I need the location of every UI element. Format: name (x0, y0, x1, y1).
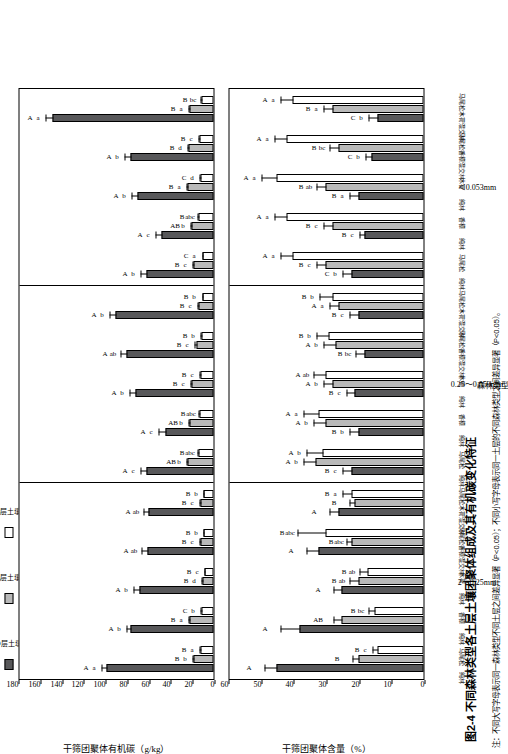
significance-letter-lower: d (190, 175, 194, 182)
error-bar (188, 108, 190, 109)
significance-letter-upper: B (185, 490, 190, 497)
bar-o-layer: Ab (115, 311, 213, 319)
significance-letter-upper: A (123, 547, 128, 554)
bar-o-layer: A (341, 586, 423, 594)
error-bar (197, 305, 199, 306)
bar-group: AabBcBb (19, 486, 213, 519)
significance-letter-upper: AB (170, 223, 180, 230)
significance-letter-lower: a (333, 490, 336, 497)
significance-letter-upper: B (170, 105, 175, 112)
significance-letter-upper: B (338, 350, 343, 357)
error-bar (349, 314, 359, 315)
significance-letter-lower: a (271, 96, 274, 103)
significance-letter-upper: B (331, 311, 336, 318)
bar-a-layer: Ba (187, 183, 213, 191)
significance-letter-lower: a (271, 253, 274, 260)
significance-letter-lower: c (181, 381, 184, 388)
significance-letter-upper: B (331, 429, 336, 436)
significance-letter-lower: ab (305, 184, 312, 191)
significance-letter-lower: b (310, 293, 314, 300)
y-axis-tick-mark (214, 680, 215, 684)
bar-group: AbBaCb (19, 604, 213, 637)
bar-group: AbBcBb (19, 289, 213, 322)
significance-letter-upper: A (137, 232, 142, 239)
significance-letter-lower: bc (318, 144, 325, 151)
bar-group: CbBbcAa (229, 131, 423, 164)
error-bar (109, 314, 116, 315)
bar-a-layer: Bbc (338, 144, 423, 152)
bar-o-layer: Bc (354, 389, 423, 397)
panel-2: AcABbBabcAcABbBabcAbBcBcAabBcBbAbBcBb (19, 285, 213, 482)
significance-letter-lower: b (191, 608, 195, 615)
category-label: 香樟纯林 (426, 407, 470, 441)
y-axis-tick-label: 140 (50, 680, 62, 689)
significance-letter-upper: C (183, 608, 188, 615)
y-axis-tick-label: 0 (420, 680, 424, 689)
bar-groups: AaBbBaAbBaCbAbBdBcAabBcBbAabBcBb (19, 483, 213, 679)
bar-a-layer: ABb (191, 222, 213, 230)
significance-letter-upper: B (177, 341, 182, 348)
bar-o-layer: Aab (148, 508, 213, 516)
error-bar (329, 511, 339, 512)
significance-letter-upper: A (288, 450, 293, 457)
significance-letter-lower: d (178, 144, 182, 151)
error-bar (188, 423, 190, 424)
legend-item-b: B层土壤 (3, 498, 13, 538)
error-bar (346, 541, 353, 542)
error-bar (140, 471, 147, 472)
bar-a-layer: Bab (358, 577, 423, 585)
error-bar (190, 384, 192, 385)
bar-a-layer: Bd (202, 577, 213, 585)
bar-group: CbBcAa (229, 249, 423, 282)
error-bar (124, 156, 132, 157)
error-bar (352, 659, 359, 660)
error-bar (186, 187, 188, 188)
bar-o-layer: Ab (130, 625, 213, 633)
bar-a-layer: Aa (338, 302, 423, 310)
error-bar (143, 511, 148, 512)
error-bar (202, 256, 204, 257)
y-axis-tick-mark (105, 680, 106, 684)
significance-letter-upper: B (179, 450, 184, 457)
significance-letter-upper: B (331, 578, 336, 585)
significance-letter-lower: abc (186, 411, 196, 418)
significance-letter-upper: B (179, 302, 184, 309)
category-label: 马尾松 ×木荷混交林 (426, 91, 470, 125)
error-bar (190, 226, 192, 227)
significance-letter-upper: B (186, 569, 191, 576)
panel-1: ABBcAABBbcABabBabABabcBabcABBa (229, 482, 423, 679)
significance-letter-lower: b (191, 332, 195, 339)
bar-b-layer: Aab (325, 371, 423, 379)
y-axis-top: 020406080100120140160180干筛团聚体有机碳（g/kg） (18, 680, 214, 754)
y-axis-tick-label: 30 (318, 680, 326, 689)
significance-letter-lower: ab (302, 372, 309, 379)
significance-letter-lower: a (265, 214, 268, 221)
bar-groups: ABBcAABBbcABabBabABabcBabcABBa (229, 483, 423, 679)
bar-o-layer: A (318, 547, 423, 555)
significance-letter-upper: A (285, 411, 290, 418)
y-axis-bottom: 0102030405060干筛团聚体含量（%） (228, 680, 424, 754)
bar-b-layer: Bb (202, 293, 213, 301)
significance-letter-lower: abc (284, 529, 294, 536)
significance-letter-upper: B (184, 293, 189, 300)
bar-a-layer: B (354, 499, 423, 507)
bar-a-layer: B (358, 655, 423, 663)
error-bar (349, 502, 356, 503)
bar-b-layer: Bbc (201, 96, 213, 104)
y-axis-tick-mark (326, 680, 327, 684)
significance-letter-upper: A (122, 468, 127, 475)
error-bar (323, 344, 336, 345)
bar-b-layer: Ab (322, 449, 423, 457)
significance-letter-lower: b (183, 656, 187, 663)
bar-group: BcAbAb (229, 446, 423, 479)
significance-letter-lower: a (177, 184, 180, 191)
significance-letter-lower: c (350, 232, 353, 239)
error-bar (199, 375, 201, 376)
significance-letter-lower: b (333, 271, 337, 278)
error-bar (349, 432, 359, 433)
bar-b-layer: Ba (200, 646, 213, 654)
error-bar (306, 453, 322, 454)
bar-o-layer: Bbc (364, 350, 423, 358)
significance-letter-upper: A (315, 587, 320, 594)
